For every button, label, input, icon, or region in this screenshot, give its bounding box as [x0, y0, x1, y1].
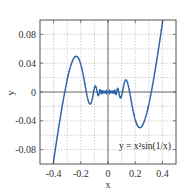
y-tick-label: 0.08 — [19, 29, 37, 40]
y-tick-label: 0.04 — [19, 58, 37, 69]
function-annotation: y = x²sin(1/x) — [119, 141, 171, 152]
x-tick-label: 0 — [106, 168, 111, 179]
y-tick-label: -0.04 — [15, 115, 36, 126]
tick-labels: -0.4-0.200.20.40.080.040-0.04-0.08 — [15, 20, 176, 179]
x-tick-label: 0.4 — [156, 168, 169, 179]
x-axis-label: x — [106, 179, 111, 190]
x-tick-label: 0.2 — [129, 168, 142, 179]
chart: -0.4-0.200.20.40.080.040-0.04-0.08 x y y… — [0, 0, 189, 195]
x-tick-label: -0.2 — [73, 168, 89, 179]
x-tick-label: -0.4 — [46, 168, 62, 179]
y-axis-label: y — [5, 91, 16, 96]
y-tick-label: -0.08 — [15, 144, 36, 155]
y-tick-label: 0 — [31, 87, 36, 98]
